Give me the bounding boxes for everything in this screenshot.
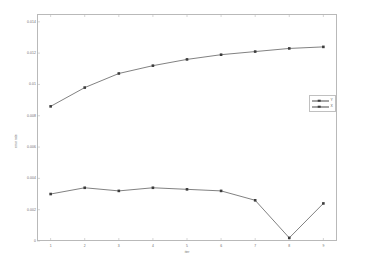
series-y — [49, 46, 324, 108]
series-layer — [49, 46, 324, 240]
x-tick-label: 4 — [152, 244, 154, 248]
legend-label: Y — [331, 99, 333, 102]
series-x — [49, 186, 324, 239]
y-tick-label: 0 — [34, 239, 36, 243]
y-tick-label: 0.006 — [27, 145, 36, 149]
legend-swatch-icon — [312, 104, 329, 109]
y-tick-label: 0.002 — [27, 208, 36, 212]
y-tick-label: 0.012 — [27, 51, 36, 55]
x-tick-label: 2 — [84, 244, 86, 248]
x-tick-label: 8 — [288, 244, 290, 248]
y-tick-label: 0.004 — [27, 176, 36, 180]
y-tick-label: 0.014 — [27, 20, 36, 24]
x-tick-label: 9 — [322, 244, 324, 248]
legend-item-x[interactable]: X — [312, 104, 333, 110]
y-axis-title: error rate — [14, 134, 18, 148]
y-tick-label: 0.01 — [29, 82, 36, 86]
legend-label: X — [331, 105, 333, 108]
x-tick-label: 6 — [220, 244, 222, 248]
chart-legend: YX — [309, 95, 336, 112]
legend-swatch-icon — [312, 98, 329, 103]
x-tick-label: 5 — [186, 244, 188, 248]
y-tick-label: 0.008 — [27, 114, 36, 118]
chart-canvas — [0, 0, 367, 261]
x-axis-title: iter — [185, 250, 190, 254]
x-tick-label: 7 — [254, 244, 256, 248]
chart-figure: 0.0140.0120.010.0080.0060.0040.0020 1234… — [0, 0, 367, 261]
x-tick-label: 1 — [50, 244, 52, 248]
tick-marks — [37, 14, 323, 241]
x-tick-label: 3 — [118, 244, 120, 248]
